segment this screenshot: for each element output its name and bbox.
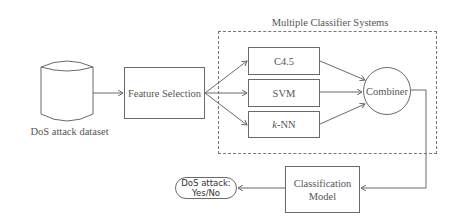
output-line1: DoS attack: — [181, 178, 230, 188]
mcs-group-title: Multiple Classifier Systems — [250, 17, 410, 28]
classification-model-line1: Classification — [294, 177, 352, 190]
database-icon — [41, 61, 93, 121]
classifier-c45-box: C4.5 — [248, 47, 320, 75]
combiner-label: Combiner — [366, 86, 408, 97]
classifier-svm-box: SVM — [248, 79, 320, 107]
combiner-node: Combiner — [363, 67, 411, 115]
dataset-label: DoS attack dataset — [22, 126, 117, 137]
classifier-knn-box: k-NN — [248, 111, 320, 138]
feature-selection-label: Feature Selection — [128, 87, 201, 100]
output-terminal: DoS attack: Yes/No — [175, 177, 237, 199]
classifier-knn-label: k-NN — [272, 118, 295, 131]
output-line2: Yes/No — [192, 188, 220, 198]
classifier-c45-label: C4.5 — [274, 55, 294, 68]
classifier-svm-label: SVM — [273, 87, 296, 100]
diagram-canvas: Multiple Classifier Systems DoS attack d… — [0, 0, 463, 221]
classification-model-line2: Model — [309, 190, 336, 203]
feature-selection-box: Feature Selection — [124, 67, 205, 119]
classification-model-box: Classification Model — [285, 166, 360, 213]
